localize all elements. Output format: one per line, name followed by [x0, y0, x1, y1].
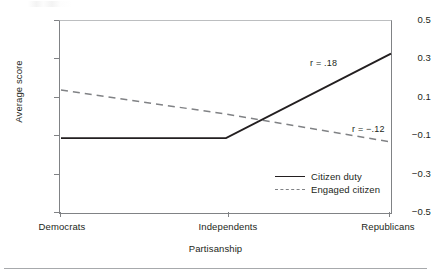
- series-line-engaged-citizen: [61, 90, 391, 142]
- legend-item-engaged-citizen[interactable]: Engaged citizen: [275, 183, 395, 196]
- x-tick-label-democrats: Democrats: [39, 221, 86, 232]
- x-tick-label-republicans: Republicans: [361, 221, 414, 232]
- annotation-r-engaged-citizen: r = −.12: [352, 124, 385, 134]
- footer-rule: [4, 268, 427, 269]
- legend-label: Citizen duty: [311, 170, 362, 183]
- figure-container: Average score 0.5 0.3 0.1 −0.1 −0.3 −0.5…: [0, 0, 431, 279]
- x-axis-title: Partisanship: [0, 243, 431, 254]
- annotation-r-citizen-duty: r = .18: [310, 58, 337, 68]
- legend-swatch-dashed-line-icon: [275, 189, 305, 190]
- y-axis-title: Average score: [13, 50, 24, 134]
- legend-swatch-solid-line-icon: [275, 176, 305, 177]
- legend-item-citizen-duty[interactable]: Citizen duty: [275, 170, 395, 183]
- x-tick-label-independents: Independents: [199, 221, 258, 232]
- scan-artifact: [28, 1, 74, 7]
- legend: Citizen duty Engaged citizen: [275, 170, 395, 196]
- legend-label: Engaged citizen: [311, 183, 380, 196]
- series-line-citizen-duty: [61, 54, 391, 139]
